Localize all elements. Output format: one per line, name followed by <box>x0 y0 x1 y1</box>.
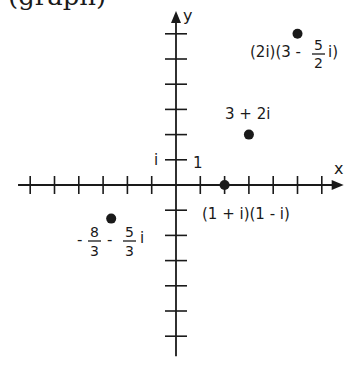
point-label-1-plus-i-times-1-minus-i: (1 + i)(1 - i) <box>202 205 290 223</box>
fraction-2-denominator: 3 <box>125 243 134 259</box>
point-label-suffix: i) <box>328 43 338 61</box>
complex-plane-figure: (graph) x y 1 i (2i)(3 - 5 2 i) 3 + 2i (… <box>0 0 349 366</box>
fraction-1-numerator: 8 <box>90 224 99 240</box>
point-label-2i-times-3-minus-5-2-i: (2i)(3 - 5 2 i) <box>250 37 338 71</box>
data-point <box>244 130 254 140</box>
point-label-3-plus-2i: 3 + 2i <box>225 105 270 123</box>
fraction-denominator: 2 <box>314 55 323 71</box>
sign-1: - <box>77 231 82 249</box>
axes <box>18 11 344 356</box>
y-axis-label: y <box>183 6 192 25</box>
x-axis-label: x <box>334 159 343 178</box>
data-point <box>106 214 116 224</box>
suffix-i: i <box>140 229 144 247</box>
point-label-neg-8-3-minus-5-3-i: - 8 3 - 5 3 i <box>77 224 144 259</box>
fraction-2-numerator: 5 <box>125 224 134 240</box>
data-point <box>220 180 230 190</box>
data-point <box>293 29 303 39</box>
x-axis-arrowhead <box>332 180 344 190</box>
y-unit-tick-label: i <box>154 151 158 169</box>
point-label-prefix: (2i)(3 - <box>250 43 301 61</box>
y-axis-arrowhead <box>171 11 181 23</box>
x-unit-tick-label: 1 <box>193 154 203 172</box>
sign-2: - <box>107 231 112 249</box>
fraction-numerator: 5 <box>314 37 323 53</box>
complex-plane: x y 1 i (2i)(3 - 5 2 i) 3 + 2i (1 + i)(1… <box>0 0 349 366</box>
fraction-1-denominator: 3 <box>90 243 99 259</box>
cut-off-title: (graph) <box>8 0 106 9</box>
